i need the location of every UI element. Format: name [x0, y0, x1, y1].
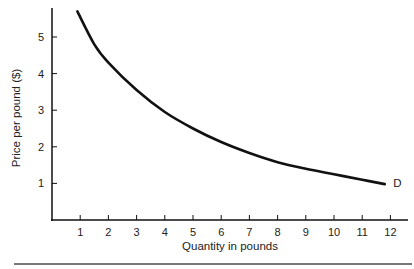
- y-axis-ticks: 12345: [38, 31, 57, 189]
- x-axis-ticks: 123456789101112: [77, 215, 396, 238]
- x-axis-label: Quantity in pounds: [182, 240, 278, 252]
- axes: [51, 8, 408, 221]
- svg-text:10: 10: [328, 226, 340, 238]
- svg-text:5: 5: [38, 31, 44, 43]
- svg-text:5: 5: [190, 226, 196, 238]
- y-axis-label: Price per pound ($): [10, 69, 22, 168]
- svg-text:1: 1: [77, 226, 83, 238]
- svg-text:2: 2: [38, 141, 44, 153]
- svg-text:6: 6: [218, 226, 224, 238]
- svg-text:2: 2: [105, 226, 111, 238]
- svg-text:11: 11: [356, 226, 367, 238]
- demand-curve: [77, 11, 384, 184]
- svg-text:1: 1: [38, 177, 44, 189]
- svg-text:12: 12: [384, 226, 396, 238]
- demand-curve-chart: 123456789101112 12345 D Quantity in poun…: [0, 0, 414, 269]
- svg-text:3: 3: [134, 226, 140, 238]
- svg-text:4: 4: [162, 226, 168, 238]
- svg-text:9: 9: [303, 226, 309, 238]
- svg-text:3: 3: [38, 104, 44, 116]
- svg-text:4: 4: [38, 68, 44, 80]
- svg-text:7: 7: [246, 226, 252, 238]
- svg-text:8: 8: [275, 226, 281, 238]
- curve-label: D: [393, 177, 401, 189]
